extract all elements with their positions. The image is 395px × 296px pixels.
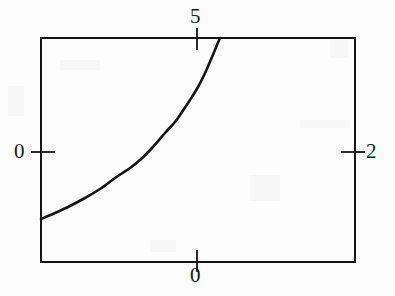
tick-label-top: 5 — [190, 6, 201, 27]
figure-container: 5 0 2 0 — [0, 0, 395, 296]
tick-label-bottom: 0 — [190, 265, 201, 286]
tick-label-right: 2 — [366, 141, 377, 162]
plot-canvas — [0, 0, 395, 296]
tick-label-left: 0 — [14, 141, 25, 162]
